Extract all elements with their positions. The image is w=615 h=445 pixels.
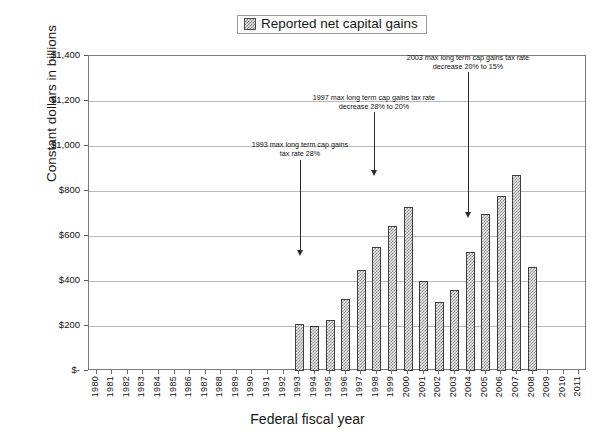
x-tick-mark	[236, 370, 237, 374]
x-tick-label-1987: 1987	[200, 376, 209, 397]
y-tick-label: $1,400	[26, 50, 80, 60]
gridline	[89, 236, 585, 237]
chart-legend: Reported net capital gains	[237, 15, 427, 34]
x-tick-label-1995: 1995	[324, 376, 333, 397]
x-tick-mark	[391, 370, 392, 374]
annotation-1993: 1993 max long term cap gainstax rate 28%	[220, 140, 380, 158]
annotation-1993-line1: 1993 max long term cap gains	[252, 140, 348, 149]
x-tick-mark	[469, 370, 470, 374]
annotation-2003-arrow-shaft	[468, 72, 469, 212]
x-tick-label-2001: 2001	[418, 376, 427, 397]
gridline	[89, 326, 585, 327]
bar-1997	[357, 270, 366, 371]
annotation-2003: 2003 max long term cap gains tax ratedec…	[388, 53, 548, 71]
x-tick-mark	[314, 370, 315, 374]
x-tick-mark	[158, 370, 159, 374]
x-tick-label-2002: 2002	[433, 376, 442, 397]
x-tick-mark	[267, 370, 268, 374]
y-tick-mark	[84, 55, 88, 56]
x-tick-label-1994: 1994	[309, 376, 318, 397]
x-tick-label-1981: 1981	[106, 376, 115, 397]
x-tick-mark	[578, 370, 579, 374]
x-tick-mark	[407, 370, 408, 374]
x-tick-mark	[329, 370, 330, 374]
x-tick-label-2005: 2005	[480, 376, 489, 397]
x-tick-label-1991: 1991	[262, 376, 271, 397]
x-tick-mark	[547, 370, 548, 374]
x-tick-mark	[189, 370, 190, 374]
x-tick-mark	[532, 370, 533, 374]
x-tick-mark	[142, 370, 143, 374]
annotation-1997: 1997 max long term cap gains tax ratedec…	[294, 93, 454, 111]
x-axis-title: Federal fiscal year	[0, 411, 615, 427]
bar-2005	[481, 214, 490, 371]
y-tick-label: $1,200	[26, 95, 80, 105]
y-tick-mark	[84, 100, 88, 101]
y-tick-mark	[84, 145, 88, 146]
bar-2008	[528, 267, 537, 371]
annotation-1993-arrow-shaft	[300, 160, 301, 250]
x-tick-label-2006: 2006	[495, 376, 504, 397]
bar-2006	[497, 196, 506, 372]
x-tick-label-2008: 2008	[527, 376, 536, 397]
annotation-1997-arrow-head	[371, 170, 377, 176]
x-tick-mark	[283, 370, 284, 374]
x-tick-label-1998: 1998	[371, 376, 380, 397]
x-tick-label-1989: 1989	[231, 376, 240, 397]
x-tick-label-1980: 1980	[91, 376, 100, 397]
bar-1996	[341, 299, 350, 371]
x-tick-mark	[500, 370, 501, 374]
x-tick-mark	[376, 370, 377, 374]
capital-gains-bar-chart: Reported net capital gains Constant doll…	[0, 0, 615, 445]
x-tick-label-1996: 1996	[340, 376, 349, 397]
y-tick-mark	[84, 280, 88, 281]
x-tick-label-2003: 2003	[449, 376, 458, 397]
y-tick-label: $600	[26, 230, 80, 240]
x-tick-label-1990: 1990	[246, 376, 255, 397]
x-tick-mark	[174, 370, 175, 374]
x-tick-label-2009: 2009	[542, 376, 551, 397]
bar-1994	[310, 326, 319, 371]
x-tick-label-2004: 2004	[464, 376, 473, 397]
x-tick-mark	[345, 370, 346, 374]
y-tick-mark	[84, 190, 88, 191]
x-tick-mark	[220, 370, 221, 374]
x-tick-label-1988: 1988	[215, 376, 224, 397]
y-tick-label: $800	[26, 185, 80, 195]
x-tick-mark	[454, 370, 455, 374]
x-tick-label-1993: 1993	[293, 376, 302, 397]
gridline	[89, 281, 585, 282]
x-tick-mark	[563, 370, 564, 374]
x-tick-label-1997: 1997	[355, 376, 364, 397]
x-tick-mark	[423, 370, 424, 374]
annotation-1997-arrow-shaft	[374, 112, 375, 170]
annotation-1997-line1: 1997 max long term cap gains tax rate	[313, 93, 435, 102]
x-tick-label-1985: 1985	[169, 376, 178, 397]
x-tick-mark	[111, 370, 112, 374]
x-tick-label-2010: 2010	[558, 376, 567, 397]
x-tick-mark	[205, 370, 206, 374]
bar-2002	[435, 302, 444, 371]
x-tick-label-1999: 1999	[386, 376, 395, 397]
bar-2000	[404, 207, 413, 371]
annotation-1997-line2: decrease 28% to 20%	[294, 102, 454, 111]
x-tick-mark	[127, 370, 128, 374]
y-tick-label: $400	[26, 275, 80, 285]
bar-1993	[295, 324, 304, 371]
y-tick-mark	[84, 325, 88, 326]
x-tick-label-1986: 1986	[184, 376, 193, 397]
annotation-2003-line2: decrease 20% to 15%	[388, 62, 548, 71]
bar-1999	[388, 226, 397, 371]
bar-2003	[450, 290, 459, 371]
x-tick-mark	[485, 370, 486, 374]
x-tick-mark	[516, 370, 517, 374]
bar-2007	[512, 175, 521, 371]
x-tick-label-1984: 1984	[153, 376, 162, 397]
gridline	[89, 191, 585, 192]
annotation-2003-line1: 2003 max long term cap gains tax rate	[407, 53, 529, 62]
bar-2004	[466, 252, 475, 371]
x-tick-label-1983: 1983	[137, 376, 146, 397]
y-tick-mark	[84, 235, 88, 236]
y-tick-label: $200	[26, 320, 80, 330]
bar-1998	[372, 247, 381, 371]
